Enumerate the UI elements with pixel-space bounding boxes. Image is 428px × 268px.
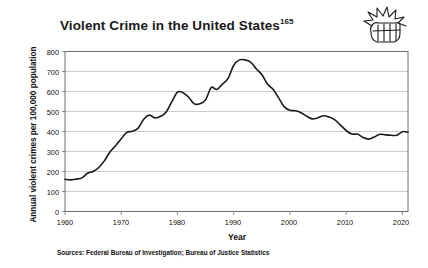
violent-crime-rate-line	[65, 59, 408, 180]
plot-area	[0, 0, 428, 268]
chart-figure: Violent Crime in the United States165 An…	[0, 0, 428, 268]
gridlines	[65, 52, 408, 192]
